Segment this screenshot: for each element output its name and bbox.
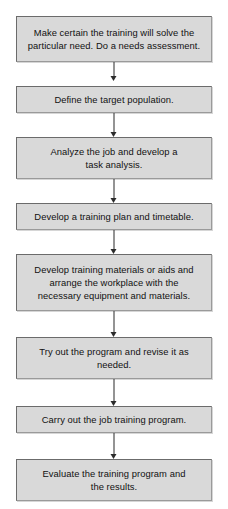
- flowchart-node-carry-out-program[interactable]: Carry out the job training program.: [16, 406, 212, 433]
- flowchart-connector-1: [114, 62, 115, 76]
- flowchart-node-training-plan-timetable[interactable]: Develop a training plan and timetable.: [16, 203, 212, 230]
- flowchart-node-label: Evaluate the training program and the re…: [24, 467, 204, 493]
- flowchart-connector-4: [114, 230, 115, 249]
- flowchart-node-label: Analyze the job and develop a task analy…: [24, 145, 204, 171]
- flowchart-node-label: Make certain the training will solve the…: [24, 26, 204, 52]
- flowchart-node-task-analysis[interactable]: Analyze the job and develop a task analy…: [16, 137, 212, 179]
- flowchart-node-label: Develop a training plan and timetable.: [24, 210, 204, 223]
- flowchart-arrowhead-1: [111, 76, 117, 81]
- flowchart-node-label: Carry out the job training program.: [24, 413, 204, 426]
- flowchart-node-define-target-population[interactable]: Define the target population.: [16, 86, 212, 113]
- flowchart-node-label: Try out the program and revise it as nee…: [24, 345, 204, 371]
- flowchart-connector-7: [114, 433, 115, 454]
- flowchart-node-evaluate-program[interactable]: Evaluate the training program and the re…: [16, 459, 212, 501]
- flowchart-node-label: Develop training materials or aids and a…: [24, 263, 204, 302]
- flowchart-connector-3: [114, 179, 115, 198]
- flowchart-node-training-materials-workplace[interactable]: Develop training materials or aids and a…: [16, 254, 212, 311]
- flowchart-node-label: Define the target population.: [24, 93, 204, 106]
- flowchart-connector-6: [114, 379, 115, 401]
- flowchart-connector-5: [114, 311, 115, 332]
- flowchart-diagram: Make certain the training will solve the…: [0, 0, 228, 509]
- flowchart-node-try-out-and-revise[interactable]: Try out the program and revise it as nee…: [16, 337, 212, 379]
- flowchart-node-needs-assessment[interactable]: Make certain the training will solve the…: [16, 16, 212, 62]
- flowchart-connector-2: [114, 113, 115, 132]
